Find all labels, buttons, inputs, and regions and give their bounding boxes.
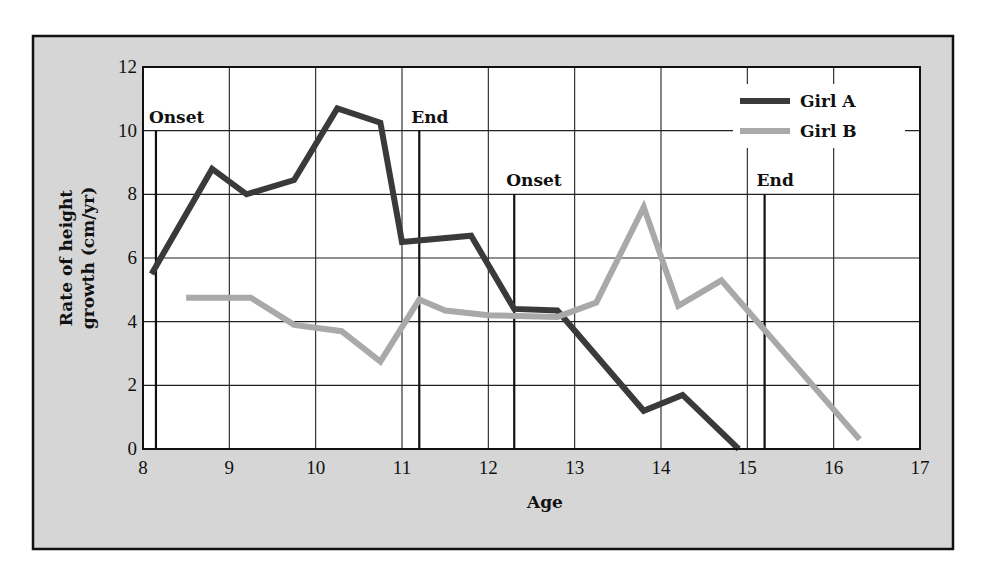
x-tick-label: 13 — [565, 457, 584, 478]
x-tick-label: 16 — [824, 457, 843, 478]
x-tick-label: 17 — [911, 457, 930, 478]
y-tick-label: 10 — [118, 120, 137, 141]
y-tick-label: 6 — [128, 247, 138, 268]
x-tick-label: 15 — [738, 457, 757, 478]
legend-label-girl-b: Girl B — [800, 121, 857, 141]
x-tick-label: 10 — [306, 457, 325, 478]
legend-label-girl-a: Girl A — [800, 91, 856, 111]
marker-label-onset: Onset — [149, 107, 205, 127]
marker-label-end: End — [411, 107, 448, 127]
y-tick-label: 4 — [128, 311, 138, 332]
growth-chart: OnsetEndOnsetEnd 891011121314151617 0246… — [0, 0, 988, 580]
y-tick-label: 12 — [118, 56, 137, 77]
marker-label-onset: Onset — [506, 170, 562, 190]
y-tick-label: 8 — [128, 183, 138, 204]
x-axis-title: Age — [526, 492, 563, 512]
y-tick-label: 0 — [128, 438, 138, 459]
x-tick-label: 9 — [225, 457, 235, 478]
y-axis-title-line-2: growth (cm/yr) — [78, 187, 98, 329]
y-axis-title-line-1: Rate of height — [56, 190, 76, 327]
x-tick-label: 8 — [138, 457, 148, 478]
marker-label-end: End — [757, 170, 794, 190]
y-tick-label: 2 — [128, 374, 138, 395]
x-tick-label: 12 — [479, 457, 498, 478]
x-tick-label: 14 — [652, 457, 672, 478]
x-tick-label: 11 — [393, 457, 411, 478]
